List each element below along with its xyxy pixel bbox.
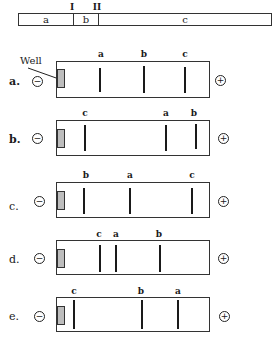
band-label: a [113, 229, 119, 239]
band-label: c [71, 286, 76, 296]
gel-label-b: b. [9, 133, 21, 146]
well [57, 129, 65, 148]
band-a [99, 68, 101, 92]
well [57, 69, 65, 88]
positive-electrode-icon: + [218, 253, 229, 264]
positive-electrode-icon: + [218, 196, 229, 207]
negative-electrode-icon: − [34, 311, 45, 322]
band-label: c [96, 229, 101, 239]
band-label: c [82, 108, 87, 118]
gel-box [56, 61, 210, 98]
band-label: a [175, 286, 181, 296]
band-b [143, 66, 145, 93]
band-a [115, 245, 117, 272]
positive-electrode-icon: + [215, 75, 226, 86]
gel-label-a: a. [9, 75, 20, 88]
band-label: b [191, 108, 197, 118]
well [57, 191, 65, 210]
positive-electrode-icon: + [219, 311, 230, 322]
band-label: b [156, 229, 162, 239]
band-a [129, 188, 131, 214]
well [57, 249, 65, 268]
band-b [141, 300, 143, 329]
positive-electrode-icon: + [218, 133, 229, 144]
band-a [165, 125, 167, 151]
band-label: b [141, 49, 147, 59]
gel-box [56, 182, 210, 218]
gel-box [56, 120, 210, 156]
negative-electrode-icon: − [32, 76, 43, 87]
gel-label-e: e. [9, 310, 19, 323]
gel-box [56, 297, 210, 332]
band-c [191, 188, 193, 214]
gel-label-d: d. [9, 253, 20, 266]
negative-electrode-icon: − [34, 196, 45, 207]
band-label: b [138, 286, 144, 296]
band-b [159, 245, 161, 272]
band-label: a [98, 49, 104, 59]
band-c [184, 67, 186, 93]
band-label: c [182, 49, 187, 59]
band-c [84, 125, 86, 151]
band-label: c [189, 170, 194, 180]
negative-electrode-icon: − [34, 253, 45, 264]
band-b [83, 188, 85, 214]
band-c [99, 245, 101, 272]
band-label: a [127, 170, 133, 180]
band-label: b [83, 170, 89, 180]
band-b [195, 124, 197, 149]
band-a [177, 300, 179, 329]
negative-electrode-icon: − [32, 133, 43, 144]
band-label: a [163, 108, 169, 118]
band-c [73, 300, 75, 329]
gel-box [56, 240, 210, 275]
well [57, 306, 65, 325]
gel-label-c: c. [9, 200, 19, 213]
